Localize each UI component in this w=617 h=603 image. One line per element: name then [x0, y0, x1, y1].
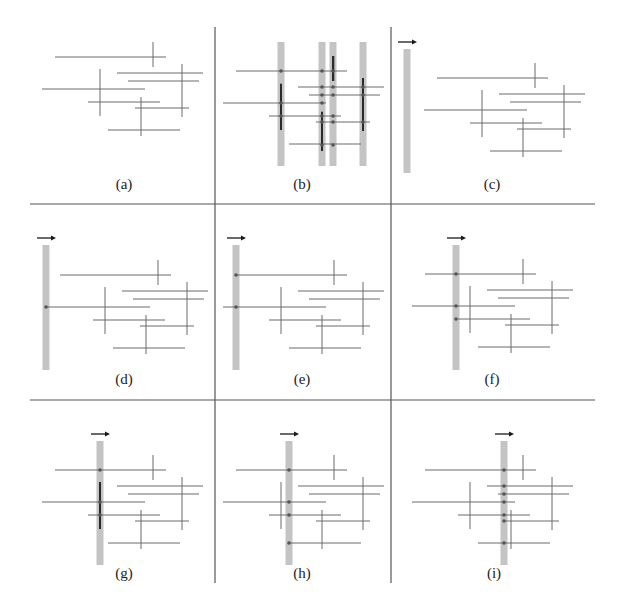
panel-label-g: (g): [115, 565, 133, 582]
arrow-head: [105, 432, 110, 437]
panel-label-f: (f): [485, 371, 500, 388]
event-point-dot: [454, 272, 458, 276]
event-point-dot: [320, 114, 324, 118]
panel-h: [223, 432, 384, 566]
arrow-head: [412, 40, 417, 45]
event-point-dot: [361, 120, 365, 124]
event-point-dot: [331, 143, 335, 147]
arrow-head: [509, 432, 514, 437]
event-point-dot: [502, 519, 506, 523]
event-point-dot: [98, 468, 102, 472]
arrow-head: [51, 236, 56, 241]
event-point-dot: [361, 85, 365, 89]
event-point-dot: [454, 317, 458, 321]
event-point-dot: [279, 69, 283, 73]
event-point-dot: [502, 500, 506, 504]
event-point-dot: [454, 304, 458, 308]
event-point-dot: [320, 69, 324, 73]
panel-c: [398, 40, 585, 174]
event-point-dot: [279, 114, 283, 118]
event-point-dot: [320, 93, 324, 97]
event-point-dot: [98, 500, 102, 504]
event-point-dot: [502, 468, 506, 472]
event-point-dot: [320, 101, 324, 105]
event-point-dot: [502, 513, 506, 517]
event-point-dot: [502, 492, 506, 496]
event-point-dot: [361, 93, 365, 97]
panel-i: [412, 432, 573, 566]
sweep-line-figure: [0, 0, 617, 603]
event-point-dot: [98, 513, 102, 517]
event-point-dot: [320, 143, 324, 147]
panel-label-a: (a): [116, 176, 133, 193]
panels: [37, 40, 585, 566]
panel-g: [42, 432, 203, 566]
sweep-direction-arrow-icon: [37, 236, 56, 241]
panel-label-i: (i): [487, 565, 501, 582]
panel-b: [223, 42, 384, 166]
event-point-dot: [331, 85, 335, 89]
event-point-dot: [331, 93, 335, 97]
sweep-direction-arrow-icon: [495, 432, 514, 437]
panel-label-c: (c): [484, 176, 501, 193]
sweep-direction-arrow-icon: [447, 236, 466, 241]
arrow-head: [294, 432, 299, 437]
sweep-line-bar: [404, 49, 411, 173]
arrow-head: [461, 236, 466, 241]
event-point-dot: [287, 541, 291, 545]
event-point-dot: [44, 305, 48, 309]
event-point-dot: [234, 273, 238, 277]
event-point-dot: [502, 484, 506, 488]
event-point-dot: [287, 513, 291, 517]
event-point-dot: [331, 114, 335, 118]
sweep-direction-arrow-icon: [91, 432, 110, 437]
arrow-head: [241, 236, 246, 241]
panel-f: [412, 236, 573, 371]
event-point-dot: [320, 120, 324, 124]
event-point-dot: [331, 120, 335, 124]
event-point-dot: [320, 85, 324, 89]
event-point-dot: [287, 500, 291, 504]
sweep-direction-arrow-icon: [280, 432, 299, 437]
event-point-dot: [331, 69, 335, 73]
panel-label-h: (h): [293, 565, 311, 582]
panel-e: [223, 236, 384, 371]
panel-label-e: (e): [294, 371, 311, 388]
event-point-dot: [287, 468, 291, 472]
sweep-direction-arrow-icon: [227, 236, 246, 241]
sweep-direction-arrow-icon: [398, 40, 417, 45]
event-point-dot: [279, 101, 283, 105]
panel-label-d: (d): [115, 371, 133, 388]
event-point-dot: [234, 305, 238, 309]
panel-a: [42, 42, 203, 136]
panel-d: [37, 236, 208, 371]
panel-label-b: (b): [293, 176, 311, 193]
event-point-dot: [502, 541, 506, 545]
